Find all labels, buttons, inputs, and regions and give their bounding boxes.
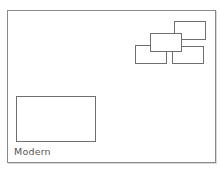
zone-small-middle (150, 33, 182, 52)
template-name-label: Modern (14, 146, 51, 158)
zone-large-bottom-left (16, 96, 96, 142)
